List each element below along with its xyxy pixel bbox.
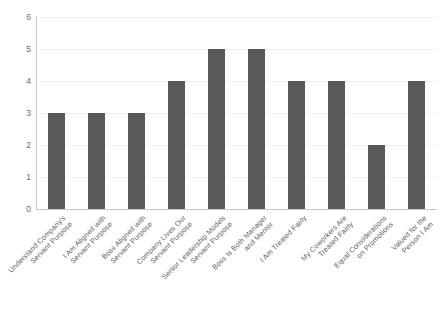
bar-chart: 6 5 4 3 2 1 0 Understand Company's Serva… <box>0 0 444 317</box>
bar <box>48 113 65 209</box>
bar <box>288 81 305 209</box>
bar <box>88 113 105 209</box>
y-tick-label: 3 <box>5 109 31 118</box>
bar <box>328 81 345 209</box>
y-tick-label: 2 <box>5 141 31 150</box>
bar <box>208 49 225 209</box>
bar <box>128 113 145 209</box>
bar <box>168 81 185 209</box>
y-tick-label: 4 <box>5 77 31 86</box>
bar <box>248 49 265 209</box>
y-tick-label: 5 <box>5 45 31 54</box>
bar <box>368 145 385 209</box>
x-axis-tick-labels: Understand Company's Servant PurposeI Am… <box>36 210 437 317</box>
y-tick-label: 0 <box>5 205 31 214</box>
y-tick-label: 1 <box>5 173 31 182</box>
y-tick-label: 6 <box>5 13 31 22</box>
bar <box>408 81 425 209</box>
